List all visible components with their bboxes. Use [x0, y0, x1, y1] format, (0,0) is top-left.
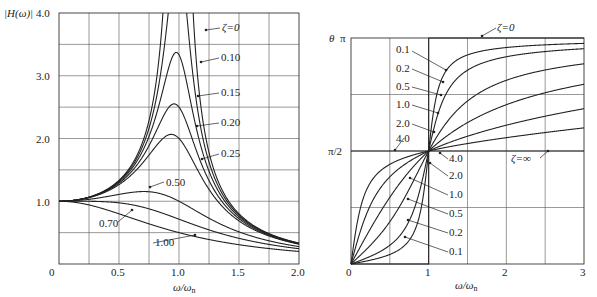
leader-line — [482, 28, 496, 36]
arrowhead-icon — [440, 94, 443, 97]
ytick-2: 2.0 — [36, 133, 50, 145]
arrowhead-icon — [149, 186, 152, 189]
ytick-4: 4.0 — [36, 7, 50, 19]
arrowhead-icon — [547, 150, 550, 153]
label-1.00: 1.00 — [155, 236, 175, 248]
xtick-1.0: 1.0 — [171, 266, 185, 278]
label-lo-0.2: 0.2 — [449, 226, 463, 238]
phase-axis-label: θ — [329, 32, 335, 44]
leader-line — [540, 151, 548, 158]
leader-line — [412, 124, 434, 132]
leader-line — [198, 93, 219, 96]
xtick-r2: 2 — [502, 266, 508, 278]
arrowhead-icon — [197, 95, 200, 98]
label-0.25: 0.25 — [221, 147, 241, 159]
xtick-r3: 3 — [580, 266, 586, 278]
label-up-0.2: 0.2 — [396, 62, 410, 74]
arrowhead-icon — [437, 112, 440, 115]
label-lo-2.0: 2.0 — [449, 169, 463, 181]
leader-line — [150, 182, 164, 187]
arrowhead-icon — [131, 209, 134, 212]
arrowhead-icon — [201, 158, 204, 161]
arrowhead-icon — [445, 69, 448, 72]
leader-line — [412, 87, 441, 95]
xtick-0: 0 — [49, 266, 55, 278]
label-up-1.0: 1.0 — [396, 98, 410, 110]
label-up-2.0: 2.0 — [396, 117, 410, 129]
magnitude-curve-0.10 — [185, 0, 299, 243]
xtick-1.5: 1.5 — [231, 266, 245, 278]
magnitude-leaders — [118, 28, 220, 243]
leader-line — [408, 199, 448, 214]
arrowhead-icon — [196, 125, 199, 128]
ytick-1: 1.0 — [36, 196, 50, 208]
ytick-3: 3.0 — [36, 70, 50, 82]
xtick-r1: 1 — [425, 266, 431, 278]
leader-line — [118, 210, 132, 222]
arrowhead-icon — [433, 131, 436, 134]
label-0.15: 0.15 — [221, 86, 241, 98]
arrowhead-icon — [481, 35, 484, 38]
xtick-r0: 0 — [346, 266, 352, 278]
label-zeta-inf: ζ=∞ — [511, 152, 531, 165]
label-zeta-0: ζ=0 — [222, 21, 240, 34]
magnitude-curve-ζ=0 — [193, 0, 300, 243]
chart-canvas: |H(ω)| 4.0 3.0 2.0 1.0 0 0.5 1.0 1.5 2.0… — [0, 0, 597, 297]
leader-line — [405, 237, 448, 252]
magnitude-curve-ζ=0 — [59, 0, 164, 201]
ytick-half-pi: π/2 — [328, 145, 342, 157]
phase-xlabel: ω/ωn — [455, 279, 478, 293]
phase-leaders — [394, 28, 550, 252]
leader-line — [201, 58, 219, 62]
leader-line — [440, 153, 448, 159]
label-up-0.1: 0.1 — [396, 43, 410, 55]
label-lo-0.1: 0.1 — [449, 245, 463, 257]
label-zeta-0-phase: ζ=0 — [497, 21, 515, 34]
arrowhead-icon — [407, 219, 410, 222]
arrowhead-icon — [200, 61, 203, 64]
ytick-pi: π — [340, 32, 346, 44]
arrowhead-icon — [404, 236, 407, 239]
label-up-4.0: 4.0 — [396, 132, 410, 144]
label-0.70: 0.70 — [99, 217, 119, 229]
magnitude-axis-label: |H(ω)| — [4, 7, 33, 20]
label-0.20: 0.20 — [221, 116, 241, 128]
label-0.10: 0.10 — [221, 51, 241, 63]
leader-line — [430, 163, 448, 176]
leader-line — [206, 28, 220, 30]
label-lo-1.0: 1.0 — [449, 188, 463, 200]
arrowhead-icon — [205, 29, 208, 32]
arrowhead-icon — [439, 152, 442, 155]
xtick-0.5: 0.5 — [111, 266, 125, 278]
xtick-2.0: 2.0 — [291, 266, 305, 278]
label-lo-0.5: 0.5 — [449, 207, 463, 219]
label-up-0.5: 0.5 — [396, 80, 410, 92]
magnitude-xlabel: ω/ωn — [173, 281, 196, 295]
arrowhead-icon — [429, 162, 432, 165]
arrowhead-icon — [407, 198, 410, 201]
leader-line — [412, 69, 443, 82]
arrowhead-icon — [442, 81, 445, 84]
arrowhead-icon — [409, 177, 412, 180]
arrowhead-icon — [394, 149, 397, 152]
label-lo-4.0: 4.0 — [449, 152, 463, 164]
arrowhead-icon — [194, 234, 197, 237]
label-0.50: 0.50 — [166, 176, 186, 188]
